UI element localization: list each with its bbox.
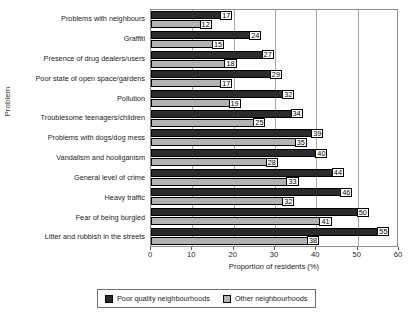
bar-row: 4632 (151, 187, 397, 207)
bar-value-label: 33 (286, 177, 298, 186)
bar-group-poor-quality: 50 (151, 208, 397, 216)
bar (151, 110, 292, 118)
bar (151, 90, 283, 98)
bar-row: 4433 (151, 167, 397, 187)
bar (151, 40, 213, 48)
bar-row: 2415 (151, 30, 397, 50)
bar-value-label: 32 (282, 90, 294, 99)
category-label: Pollution (14, 88, 148, 108)
bar-value-label: 19 (229, 99, 241, 108)
bar (151, 20, 201, 28)
bar-value-label: 40 (315, 149, 327, 158)
bar-value-label: 32 (282, 197, 294, 206)
bar-group-other: 15 (151, 40, 397, 48)
y-axis-title: Problem (3, 103, 12, 117)
bar-group-poor-quality: 32 (151, 90, 397, 98)
category-label-column: Problems with neighboursGraffitiPresence… (14, 9, 148, 247)
x-tick-label: 0 (148, 250, 152, 259)
bar (151, 99, 230, 107)
bar (151, 129, 312, 137)
bar-row: 3219 (151, 89, 397, 109)
bar-row: 5538 (151, 226, 397, 246)
bar (151, 208, 358, 216)
bar-value-label: 24 (249, 31, 261, 40)
bar-group-other: 12 (151, 20, 397, 28)
bar (151, 169, 333, 177)
bar-row: 5041 (151, 207, 397, 227)
bar-value-label: 35 (295, 138, 307, 147)
bar-group-other: 18 (151, 60, 397, 68)
bar-group-other: 32 (151, 197, 397, 205)
x-tick-label: 40 (311, 250, 319, 259)
bar (151, 51, 263, 59)
bar-value-label: 41 (319, 217, 331, 226)
bar-group-other: 28 (151, 158, 397, 166)
bar-group-other: 41 (151, 217, 397, 225)
category-label: Poor state of open space/gardens (14, 68, 148, 88)
bar-value-label: 34 (291, 109, 303, 118)
bar-group-other: 19 (151, 99, 397, 107)
bar-chart: Problem Problems with neighboursGraffiti… (0, 0, 413, 318)
bar-group-poor-quality: 55 (151, 228, 397, 236)
category-label: Heavy traffic (14, 187, 148, 207)
legend-swatch (105, 295, 113, 303)
bar-group-poor-quality: 24 (151, 31, 397, 39)
category-label: General level of crime (14, 168, 148, 188)
bar (151, 11, 221, 19)
x-tick-label: 20 (228, 250, 236, 259)
x-axis-ticks: 0102030405060 (150, 247, 398, 261)
legend-swatch (223, 295, 231, 303)
bar-row: 2718 (151, 49, 397, 69)
bar-value-label: 50 (357, 208, 369, 217)
category-label: Fear of being burgled (14, 207, 148, 227)
legend-label: Poor quality neighbourhoods (117, 294, 210, 303)
plot-area: 1712241527182917321934253935402844334632… (150, 9, 398, 247)
bar-value-label: 46 (340, 188, 352, 197)
bar-group-poor-quality: 29 (151, 70, 397, 78)
bar-group-poor-quality: 34 (151, 110, 397, 118)
bar-value-label: 18 (224, 59, 236, 68)
category-label: Troublesome teenagers/children (14, 108, 148, 128)
category-label: Problems with dogs/dog mess (14, 128, 148, 148)
bar (151, 217, 320, 225)
bar-group-other: 38 (151, 237, 397, 245)
bar-value-label: 39 (311, 129, 323, 138)
bar-row: 3935 (151, 128, 397, 148)
bar-value-label: 25 (253, 118, 265, 127)
x-tick-label: 50 (352, 250, 360, 259)
bar-group-other: 35 (151, 138, 397, 146)
category-label: Vandalism and hooliganism (14, 148, 148, 168)
bar-value-label: 38 (307, 236, 319, 245)
bar (151, 60, 225, 68)
bar-value-label: 17 (220, 11, 232, 20)
bar (151, 237, 308, 245)
bar-value-label: 44 (332, 168, 344, 177)
bar-value-label: 12 (200, 20, 212, 29)
legend-label: Other neighbourhoods (235, 294, 308, 303)
category-label: Graffiti (14, 29, 148, 49)
bar (151, 149, 316, 157)
bar-group-poor-quality: 17 (151, 11, 397, 19)
bar (151, 228, 378, 236)
bar-value-label: 55 (377, 227, 389, 236)
bar (151, 31, 250, 39)
x-tick-label: 30 (270, 250, 278, 259)
bar-row: 3425 (151, 108, 397, 128)
bar-value-label: 27 (262, 50, 274, 59)
bar (151, 178, 287, 186)
bar-rows: 1712241527182917321934253935402844334632… (151, 10, 397, 246)
bar (151, 197, 283, 205)
bar (151, 138, 296, 146)
bar (151, 119, 254, 127)
bar (151, 188, 341, 196)
bar-row: 1712 (151, 10, 397, 30)
bar-group-poor-quality: 27 (151, 51, 397, 59)
x-tick-label: 10 (187, 250, 195, 259)
bar-group-poor-quality: 46 (151, 188, 397, 196)
bar-value-label: 15 (212, 40, 224, 49)
bar-group-other: 17 (151, 79, 397, 87)
bar-group-other: 33 (151, 178, 397, 186)
category-label: Problems with neighbours (14, 9, 148, 29)
legend-entry: Other neighbourhoods (223, 294, 308, 303)
chart-legend: Poor quality neighbourhoodsOther neighbo… (97, 289, 316, 308)
